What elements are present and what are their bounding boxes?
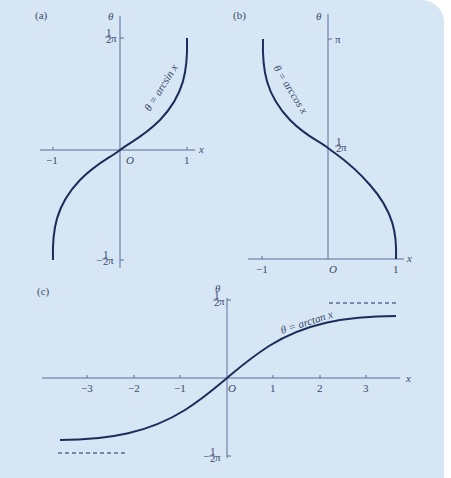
x-tick-label: −1: [256, 263, 268, 275]
y-tick-minus: −: [203, 450, 209, 462]
y-axis-label: θ: [316, 10, 322, 22]
y-tick-pi: π: [108, 254, 114, 266]
x-tick-label: −1: [46, 154, 58, 166]
x-tick-label: −1: [174, 382, 186, 394]
y-axis-label: θ: [108, 10, 114, 22]
x-tick-label: 1: [270, 382, 276, 394]
y-tick-minus: −: [96, 254, 102, 266]
panel-b-label: (b): [233, 9, 246, 22]
x-tick-label: 2: [317, 382, 323, 394]
chart-a-arcsin: (a) θ x −1 1 O 1 2 π − 1 2 π θ: [35, 9, 204, 268]
y-tick-pi: π: [219, 295, 225, 307]
figure-canvas: (a) θ x −1 1 O 1 2 π − 1 2 π θ: [0, 0, 451, 478]
curve-label: θ = arcsin x: [142, 62, 180, 113]
x-tick-label: −2: [128, 382, 140, 394]
curve-label: θ = arctan x: [279, 308, 334, 336]
x-tick-label: 1: [393, 263, 399, 275]
x-axis-label: x: [198, 143, 204, 155]
x-tick-label: 1: [184, 154, 190, 166]
chart-b-arccos: (b) θ x −1 1 O π 1 2 π θ = arccos x: [233, 9, 412, 275]
panel-a-label: (a): [35, 9, 48, 22]
x-tick-label: 3: [363, 382, 369, 394]
y-tick-pi: π: [111, 32, 117, 44]
figure-svg: (a) θ x −1 1 O 1 2 π − 1 2 π θ: [0, 0, 451, 478]
y-tick-label: π: [335, 33, 341, 45]
origin-label: O: [329, 263, 337, 275]
x-axis-label: x: [406, 252, 412, 264]
chart-c-arctan: (c) θ x −3 −2 −1 1 2 3 O 1: [37, 282, 411, 464]
curve-label: θ = arccos x: [271, 63, 310, 116]
x-tick-label: −3: [81, 382, 93, 394]
origin-label: O: [228, 382, 236, 394]
panel-c-label: (c): [37, 285, 50, 298]
y-tick-pi: π: [215, 451, 221, 463]
y-tick-pi: π: [341, 141, 347, 153]
origin-label: O: [126, 154, 134, 166]
x-axis-label: x: [405, 372, 411, 384]
